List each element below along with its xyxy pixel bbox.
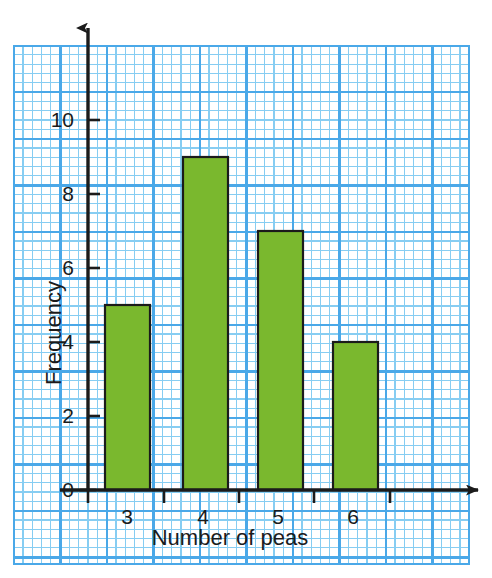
- bar-4: [183, 157, 228, 490]
- y-axis-ticks: [80, 120, 100, 490]
- y-tick-label-10: 10: [34, 108, 74, 132]
- x-axis-ticks: [88, 490, 390, 503]
- bar-6: [333, 342, 378, 490]
- y-tick-label-0: 0: [46, 478, 74, 502]
- x-axis-title: Number of peas: [0, 525, 460, 551]
- bar-3: [105, 305, 150, 490]
- y-axis-title: Frequency: [41, 253, 67, 413]
- y-tick-label-8: 8: [46, 182, 74, 206]
- bars-group: [105, 157, 378, 490]
- bar-5: [258, 231, 303, 490]
- bar-chart-figure: 0 2 4 6 8 10 3 4 5 6 Frequency Number of…: [0, 0, 492, 578]
